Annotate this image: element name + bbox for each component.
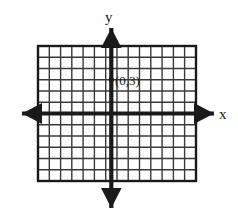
point-label-0-3: (0,3) [115, 73, 140, 88]
coordinate-plane-figure: (0,3) x y [0, 0, 238, 224]
coordinate-plane-svg: (0,3) x y [0, 0, 238, 224]
x-axis-label: x [219, 106, 227, 122]
y-axis-label: y [105, 9, 113, 25]
point-marker-0-3 [109, 77, 114, 82]
